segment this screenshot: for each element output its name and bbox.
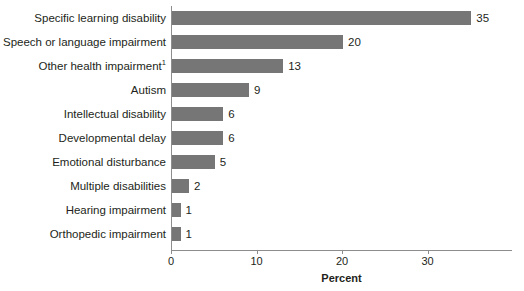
y-axis-line — [171, 6, 172, 250]
bar-value-label: 5 — [220, 150, 226, 174]
category-label: Intellectual disability — [0, 102, 166, 126]
bar-row: Emotional disturbance5 — [0, 150, 524, 174]
bar-value-label: 1 — [186, 198, 192, 222]
bar-row: Hearing impairment1 — [0, 198, 524, 222]
category-label: Other health impairment1 — [0, 54, 166, 78]
plot-area: Specific learning disability35Speech or … — [0, 0, 524, 291]
category-label: Specific learning disability — [0, 6, 166, 30]
bar-row: Orthopedic impairment1 — [0, 222, 524, 246]
x-tick-mark — [342, 250, 343, 254]
category-label: Developmental delay — [0, 126, 166, 150]
bar-value-label: 35 — [476, 6, 489, 30]
x-tick-mark — [257, 250, 258, 254]
bar-row: Other health impairment113 — [0, 54, 524, 78]
bar-row: Specific learning disability35 — [0, 6, 524, 30]
category-label: Orthopedic impairment — [0, 222, 166, 246]
category-label: Autism — [0, 78, 166, 102]
bar-value-label: 13 — [288, 54, 301, 78]
category-label: Emotional disturbance — [0, 150, 166, 174]
bar-chart: Specific learning disability35Speech or … — [0, 0, 524, 291]
bar — [172, 35, 343, 49]
x-tick-label: 30 — [421, 255, 433, 268]
bar-value-label: 9 — [254, 78, 260, 102]
x-tick-mark — [171, 250, 172, 254]
bar — [172, 131, 223, 145]
x-tick-label: 20 — [336, 255, 348, 268]
category-label: Hearing impairment — [0, 198, 166, 222]
bar-row: Autism9 — [0, 78, 524, 102]
x-tick-mark — [428, 250, 429, 254]
footnote-marker: 1 — [162, 58, 166, 67]
bar-value-label: 1 — [186, 222, 192, 246]
bar — [172, 59, 283, 73]
bar-value-label: 20 — [348, 30, 361, 54]
bar-value-label: 6 — [228, 102, 234, 126]
x-tick-label: 10 — [250, 255, 262, 268]
bar-row: Intellectual disability6 — [0, 102, 524, 126]
x-tick-label: 0 — [168, 255, 174, 268]
bar-row: Speech or language impairment20 — [0, 30, 524, 54]
bar-row: Developmental delay6 — [0, 126, 524, 150]
bar — [172, 107, 223, 121]
bar — [172, 203, 181, 217]
bar-value-label: 6 — [228, 126, 234, 150]
bar-row: Multiple disabilities2 — [0, 174, 524, 198]
category-label: Multiple disabilities — [0, 174, 166, 198]
bar — [172, 179, 189, 193]
category-label: Speech or language impairment — [0, 30, 166, 54]
x-axis-title: Percent — [171, 272, 512, 285]
bar — [172, 227, 181, 241]
bar — [172, 11, 471, 25]
bar — [172, 83, 249, 97]
bar-value-label: 2 — [194, 174, 200, 198]
bar — [172, 155, 215, 169]
